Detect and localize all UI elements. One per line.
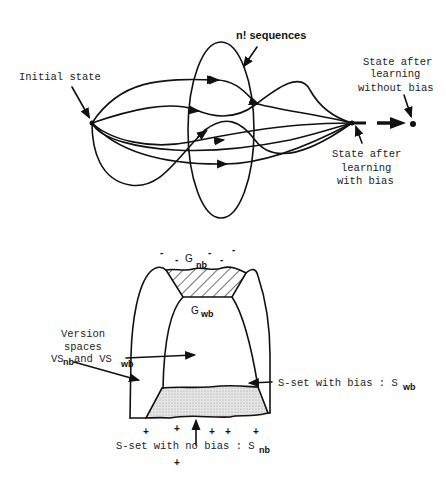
without-bias-state-dot [410,121,416,127]
version-space-diagram: - - - - - G nb G wb Version spaces VS nb… [51,244,416,468]
g-nb-subscript: nb [196,260,207,270]
sequences-label: n! sequences [236,29,306,41]
vs-wb-subscript: wb [120,359,134,369]
plus-sign: + [225,426,231,437]
minus-sign: - [232,244,235,255]
plus-sign: + [174,457,180,468]
without-bias-label-2: learning [370,68,420,80]
g-difference-region [166,267,246,297]
path-5 [92,121,352,185]
plus-sign: + [253,426,259,437]
path-2 [92,82,352,123]
with-bias-label-2: learning [341,162,391,174]
plus-sign: + [143,426,149,437]
version-spaces-label-3: VS [51,353,64,365]
with-bias-label-1: State after [332,148,401,160]
s-nb-subscript: nb [259,445,270,455]
without-bias-label-1: State after [363,56,432,68]
learning-paths-diagram: Initial state n! sequences State after l… [19,29,434,218]
minus-sign: - [220,254,223,265]
g-wb-subscript: wb [200,309,214,319]
without-bias-label-3: without bias [358,82,434,94]
inner-version-space [163,297,183,388]
minus-sign: - [160,247,163,258]
initial-state-label: Initial state [19,71,101,83]
plus-sign: + [209,426,215,437]
sequences-ellipse [188,42,254,218]
minus-sign: - [175,254,178,265]
plus-sign: + [174,423,180,434]
s-difference-region [146,386,268,418]
with-bias-label-3: with bias [337,175,394,187]
s-set-no-bias-label: S-set with no bias : S [116,440,255,452]
version-spaces-label-2: spaces [64,341,102,353]
s-set-with-bias-label: S-set with bias : S [278,377,398,389]
s-wb-subscript: wb [402,382,416,392]
vs-nb-subscript: nb [63,357,74,367]
diagram-canvas: Initial state n! sequences State after l… [0,0,446,481]
g-wb-label: G [191,305,199,316]
g-nb-label: G [185,253,193,264]
initial-state-dot [90,121,95,126]
minus-sign: - [208,247,211,258]
version-spaces-label-1: Version [61,328,105,340]
